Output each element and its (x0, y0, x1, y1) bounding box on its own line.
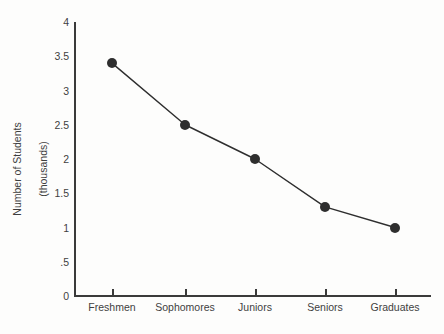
data-point-marker (390, 223, 400, 233)
x-axis-tick-label: Sophomores (155, 301, 215, 313)
y-axis-tick-label: 3 (63, 86, 69, 96)
y-axis-tick-label: 2 (63, 154, 69, 164)
line-chart: Number of Students (thousands) 0.511.522… (0, 0, 444, 334)
data-point-marker (180, 120, 190, 130)
data-point-marker (250, 154, 260, 164)
data-point-marker (320, 202, 330, 212)
y-axis-tick-label: 4 (63, 17, 69, 27)
x-axis-tick-label: Juniors (238, 301, 272, 313)
x-axis-tick-label: Graduates (370, 301, 419, 313)
y-axis-tick-label: .5 (60, 257, 69, 267)
y-axis-line (74, 22, 76, 297)
x-axis-tick-mark (255, 289, 257, 297)
y-axis-tick-labels: 0.511.522.533.54 (0, 0, 69, 334)
x-axis-tick-mark (112, 289, 114, 297)
x-axis-line (74, 295, 431, 297)
y-axis-tick-label: 1 (63, 223, 69, 233)
y-axis-tick-label: 1.5 (54, 188, 69, 198)
y-axis-tick-label: 2.5 (54, 120, 69, 130)
x-axis-tick-mark (325, 289, 327, 297)
x-axis-tick-mark (185, 289, 187, 297)
x-axis-tick-label: Freshmen (88, 301, 135, 313)
x-axis-tick-mark (395, 289, 397, 297)
y-axis-tick-label: 3.5 (54, 51, 69, 61)
x-axis-tick-label: Seniors (307, 301, 343, 313)
y-axis-tick-label: 0 (63, 291, 69, 301)
data-point-marker (107, 58, 117, 68)
